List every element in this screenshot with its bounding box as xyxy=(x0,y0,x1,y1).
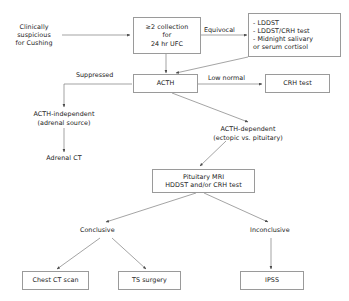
edge-label-low-normal: Low normal xyxy=(208,74,245,82)
node-line: ACTH xyxy=(157,79,175,87)
node-line: HDDST and/or CRH test xyxy=(165,181,241,189)
node-ts-surgery[interactable]: TS surgery xyxy=(118,271,181,290)
node-acth-independent: ACTH-independent (adrenal source) xyxy=(16,109,112,128)
edge-label-inconclusive: Inconclusive xyxy=(250,226,290,234)
edge-label-equivocal: Equivocal xyxy=(204,26,235,34)
node-ipss[interactable]: IPSS xyxy=(240,271,304,290)
node-line: Adrenal CT xyxy=(46,154,81,162)
node-line: CRH test xyxy=(283,79,311,87)
node-line: ≥2 collection xyxy=(146,23,189,31)
edge-conclusive-to-tssurgery xyxy=(112,238,146,269)
edge-confirmatory-to-acth xyxy=(176,57,248,73)
edge-acth-to-dependent xyxy=(172,93,248,122)
node-line: (adrenal source) xyxy=(37,119,90,127)
node-line: TS surgery xyxy=(132,276,167,284)
flowchart-canvas: Clinically suspicious for Cushing ≥2 col… xyxy=(0,0,349,301)
node-line: 24 hr UFC xyxy=(151,40,183,48)
node-crh-test[interactable]: CRH test xyxy=(265,74,330,93)
edge-label-conclusive: Conclusive xyxy=(80,226,115,234)
node-line: ACTH-dependent xyxy=(220,125,275,133)
edge-label-suppressed: Suppressed xyxy=(76,71,113,79)
node-line: (ectopic vs. pituitary) xyxy=(213,134,283,142)
node-acth[interactable]: ACTH xyxy=(133,74,198,93)
node-line: ACTH-independent xyxy=(34,110,95,118)
edge-pituitary-to-conclusive xyxy=(106,193,196,222)
node-confirmatory-tests[interactable]: - LDDST - LDDST/CRH test - Midnight sali… xyxy=(248,13,341,57)
node-clinical-suspicion: Clinically suspicious for Cushing xyxy=(6,18,62,52)
node-acth-dependent: ACTH-dependent (ectopic vs. pituitary) xyxy=(194,124,302,143)
node-line: for Cushing xyxy=(15,39,52,47)
node-line: for xyxy=(163,31,172,39)
node-line: - LDDST xyxy=(253,19,279,27)
node-line: or serum cortisol xyxy=(253,43,308,51)
edge-acth-suppressed-to-independent xyxy=(64,84,132,107)
edge-conclusive-to-chestct xyxy=(57,238,100,269)
node-line: IPSS xyxy=(265,276,279,284)
node-chest-ct-scan[interactable]: Chest CT scan xyxy=(22,271,89,290)
node-line: suspicious xyxy=(17,31,51,39)
node-line: Pituitary MRI xyxy=(183,173,224,181)
edge-pituitary-to-inconclusive xyxy=(204,193,268,222)
node-pituitary-mri[interactable]: Pituitary MRI HDDST and/or CRH test xyxy=(152,169,255,193)
node-ufc-collection[interactable]: ≥2 collection for 24 hr UFC xyxy=(133,17,201,54)
node-line: - Midnight salivary xyxy=(253,35,313,43)
node-adrenal-ct: Adrenal CT xyxy=(34,153,94,164)
node-line: Clinically xyxy=(19,23,48,31)
node-line: Chest CT scan xyxy=(32,276,78,284)
edge-dependent-to-pituitary xyxy=(200,141,226,166)
node-line: - LDDST/CRH test xyxy=(253,27,310,35)
